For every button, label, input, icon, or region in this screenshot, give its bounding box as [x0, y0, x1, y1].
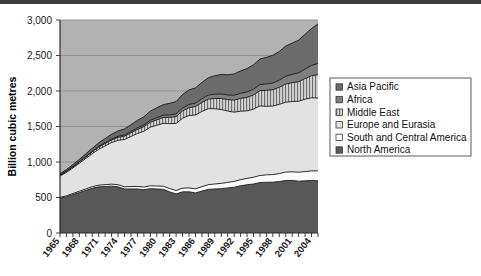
x-tick-label-1995: 1995	[233, 235, 255, 259]
x-tick-label-1974: 1974	[98, 235, 120, 259]
x-tick-label-1965: 1965	[40, 235, 62, 259]
legend-swatch-2	[336, 109, 342, 115]
legend-label-2: Middle East	[347, 107, 399, 118]
x-tick-label-1986: 1986	[175, 235, 197, 258]
legend-swatch-4	[336, 134, 342, 140]
y-tick-label-500: 500	[35, 192, 52, 203]
y-axis-tick-labels: 05001,0001,5002,0002,5003,000	[27, 15, 52, 239]
x-tick-label-1968: 1968	[59, 235, 81, 258]
y-tick-label-1500: 1,500	[27, 121, 52, 132]
y-tick-label-2500: 2,500	[27, 50, 52, 61]
x-axis-tick-labels: 1965196819711974197719801983198619891992…	[40, 235, 314, 259]
legend-swatch-1	[336, 96, 342, 102]
x-tick-label-1983: 1983	[156, 235, 178, 258]
legend-label-3: Europe and Eurasia	[347, 119, 436, 130]
x-tick-label-1971: 1971	[79, 235, 101, 259]
legend-swatch-0	[336, 84, 342, 90]
y-tick-label-1000: 1,000	[27, 157, 52, 168]
y-tick-label-2000: 2,000	[27, 86, 52, 97]
x-tick-label-1998: 1998	[253, 235, 275, 258]
x-tick-label-2004: 2004	[291, 235, 313, 259]
x-tick-label-1977: 1977	[117, 235, 139, 258]
x-tick-label-1992: 1992	[214, 235, 236, 258]
chart-canvas: 05001,0001,5002,0002,5003,000 1965196819…	[0, 0, 481, 276]
legend-swatch-5	[336, 147, 342, 153]
legend-label-5: North America	[347, 144, 411, 155]
legend-label-4: South and Central America	[347, 132, 467, 143]
stacked-area-chart: 05001,0001,5002,0002,5003,000 1965196819…	[0, 0, 481, 276]
x-tick-label-1989: 1989	[195, 235, 217, 258]
y-tick-label-3000: 3,000	[27, 15, 52, 26]
legend-label-0: Asia Pacific	[347, 81, 399, 92]
legend-label-1: Africa	[347, 94, 373, 105]
y-axis-title: Billion cubic metres	[6, 76, 18, 176]
y-axis-title-text: Billion cubic metres	[6, 76, 18, 176]
legend-swatch-3	[336, 122, 342, 128]
chart-legend: Asia PacificAfricaMiddle EastEurope and …	[330, 78, 471, 156]
x-tick-label-1980: 1980	[137, 235, 159, 258]
x-tick-label-2001: 2001	[272, 235, 294, 259]
